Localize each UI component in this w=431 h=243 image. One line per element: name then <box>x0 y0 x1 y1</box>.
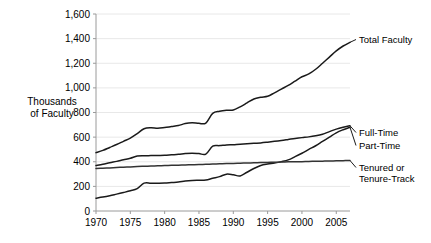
series-label-total-faculty: Total Faculty <box>359 34 413 45</box>
series-label-tenured-or-tenure-track-line-2: Tenure-Track <box>359 173 415 184</box>
x-tick-label-2000: 2000 <box>291 217 314 228</box>
x-tick-label-1970: 1970 <box>85 217 108 228</box>
y-tick-label-200: 200 <box>73 181 90 192</box>
x-tick-label-1985: 1985 <box>188 217 211 228</box>
y-axis-title-line-1: Thousands <box>27 96 76 107</box>
series-label-tenured-or-tenure-track-line-1: Tenured or <box>359 162 404 173</box>
y-tick-label-600: 600 <box>73 132 90 143</box>
y-axis-title: Thousandsof Faculty <box>27 96 76 119</box>
x-tick-label-2005: 2005 <box>325 217 348 228</box>
faculty-trends-chart: 02004006008001,0001,2001,4001,600 197019… <box>0 0 431 243</box>
y-tick-label-1000: 1,000 <box>65 82 90 93</box>
x-tick-label-1990: 1990 <box>222 217 245 228</box>
x-tick-label-1980: 1980 <box>154 217 177 228</box>
y-tick-label-1600: 1,600 <box>65 9 90 20</box>
y-tick-label-400: 400 <box>73 156 90 167</box>
chart-canvas: 02004006008001,0001,2001,4001,600 197019… <box>0 0 431 243</box>
x-tick-label-1995: 1995 <box>256 217 279 228</box>
y-tick-label-800: 800 <box>73 107 90 118</box>
series-label-full-time: Full-Time <box>359 127 398 138</box>
x-tick-label-1975: 1975 <box>119 217 142 228</box>
y-tick-label-1200: 1,200 <box>65 58 90 69</box>
y-tick-label-0: 0 <box>84 206 90 217</box>
y-tick-label-1400: 1,400 <box>65 33 90 44</box>
y-axis-title-line-2: of Faculty <box>30 108 73 119</box>
series-label-part-time: Part-Time <box>359 140 400 151</box>
